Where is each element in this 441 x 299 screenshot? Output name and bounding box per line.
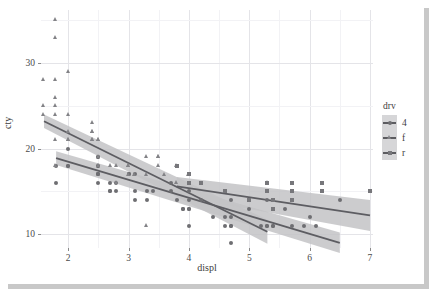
x-tick-mark	[129, 248, 130, 251]
data-point-f	[53, 95, 57, 99]
data-point-r	[271, 198, 275, 202]
x-tick-label: 5	[247, 253, 252, 263]
data-point-f	[53, 35, 57, 39]
data-point-4	[54, 181, 58, 185]
legend-label: 4	[402, 118, 407, 128]
x-tick-label: 7	[368, 253, 373, 263]
legend-key-square-icon	[388, 151, 392, 155]
data-point-f	[132, 172, 136, 176]
data-point-4	[308, 215, 312, 219]
figure-frame: cty displ 234567102030 drv 4fr	[0, 0, 428, 283]
data-point-f	[53, 103, 57, 107]
data-point-4	[302, 224, 306, 228]
data-point-f	[66, 129, 70, 133]
legend-entry-4[interactable]: 4	[382, 115, 426, 130]
data-point-f	[41, 77, 45, 81]
data-point-4	[187, 224, 191, 228]
data-point-r	[265, 181, 269, 185]
x-tick-mark	[370, 248, 371, 251]
data-point-4	[181, 207, 185, 211]
data-point-f	[144, 154, 148, 158]
legend-label: f	[402, 133, 405, 143]
data-point-4	[133, 198, 137, 202]
data-point-4	[223, 224, 227, 228]
y-tick-mark	[38, 149, 41, 150]
x-tick-mark	[189, 248, 190, 251]
data-point-f	[53, 163, 57, 167]
data-point-f	[53, 137, 57, 141]
data-point-4	[66, 147, 70, 151]
data-point-f	[114, 180, 118, 184]
data-point-f	[126, 172, 130, 176]
data-point-r	[199, 181, 203, 185]
data-point-r	[265, 189, 269, 193]
data-point-4	[66, 164, 70, 168]
data-point-r	[320, 181, 324, 185]
data-point-f	[90, 120, 94, 124]
data-point-f	[53, 112, 57, 116]
legend-entry-f[interactable]: f	[382, 130, 426, 145]
legend-entries: 4fr	[382, 115, 426, 160]
legend-key-f	[382, 130, 397, 145]
y-tick-label: 20	[13, 144, 35, 154]
data-point-f	[144, 223, 148, 227]
data-point-f	[90, 129, 94, 133]
data-point-f	[114, 163, 118, 167]
data-point-f	[156, 154, 160, 158]
y-tick-label: 10	[13, 229, 35, 239]
data-point-4	[145, 198, 149, 202]
y-axis-title: cty	[2, 117, 13, 129]
data-point-r	[187, 172, 191, 176]
legend-entry-r[interactable]: r	[382, 145, 426, 160]
data-point-f	[66, 69, 70, 73]
data-point-r	[290, 189, 294, 193]
plot-panel	[41, 10, 373, 248]
x-tick-label: 6	[307, 253, 312, 263]
data-point-f	[96, 163, 100, 167]
data-point-f	[53, 77, 57, 81]
data-point-f	[144, 172, 148, 176]
confidence-band-f	[44, 114, 267, 243]
data-point-f	[66, 137, 70, 141]
data-point-4	[229, 241, 233, 245]
data-point-r	[187, 181, 191, 185]
y-tick-label: 30	[13, 58, 35, 68]
data-point-f	[53, 17, 57, 21]
data-point-f	[174, 180, 178, 184]
x-tick-mark	[68, 248, 69, 251]
x-tick-mark	[249, 248, 250, 251]
regression-line-f	[44, 121, 267, 231]
data-point-f	[41, 112, 45, 116]
data-point-f	[108, 163, 112, 167]
x-tick-label: 3	[126, 253, 131, 263]
data-point-r	[223, 189, 227, 193]
x-tick-label: 4	[187, 253, 192, 263]
frame-shadow-bottom	[8, 284, 429, 289]
data-point-r	[290, 181, 294, 185]
data-point-f	[96, 137, 100, 141]
data-point-f	[162, 172, 166, 176]
data-point-f	[126, 163, 130, 167]
x-tick-mark	[310, 248, 311, 251]
data-point-r	[320, 189, 324, 193]
data-point-f	[41, 103, 45, 107]
data-point-4	[187, 207, 191, 211]
y-tick-mark	[38, 63, 41, 64]
frame-shadow-right	[424, 8, 429, 289]
data-point-r	[290, 198, 294, 202]
data-point-4	[290, 224, 294, 228]
data-point-f	[96, 154, 100, 158]
legend-title: drv	[382, 101, 426, 111]
data-point-r	[247, 198, 251, 202]
data-point-4	[199, 198, 203, 202]
legend-key-circle-icon	[388, 121, 392, 125]
data-point-4	[247, 207, 251, 211]
y-tick-mark	[38, 234, 41, 235]
data-point-r	[175, 164, 179, 168]
data-point-f	[90, 137, 94, 141]
x-tick-label: 2	[66, 253, 71, 263]
x-axis-title: displ	[41, 262, 373, 273]
chart-legend: drv 4fr	[382, 101, 426, 160]
data-point-r	[271, 207, 275, 211]
data-point-f	[66, 112, 70, 116]
